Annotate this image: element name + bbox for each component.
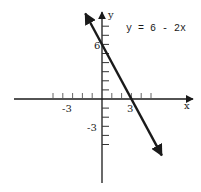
line-y-equals-6-minus-2x xyxy=(85,13,161,155)
equation-label: y = 6 - 2x xyxy=(126,24,186,34)
x-tick-label-3: 3 xyxy=(127,104,133,114)
x-axis-label: x xyxy=(184,101,190,111)
y-tick-label-6: 6 xyxy=(94,41,100,51)
x-tick-label-neg3: -3 xyxy=(62,104,72,114)
y-tick-label-neg3: -3 xyxy=(87,123,97,133)
y-axis-label: y xyxy=(108,10,114,20)
